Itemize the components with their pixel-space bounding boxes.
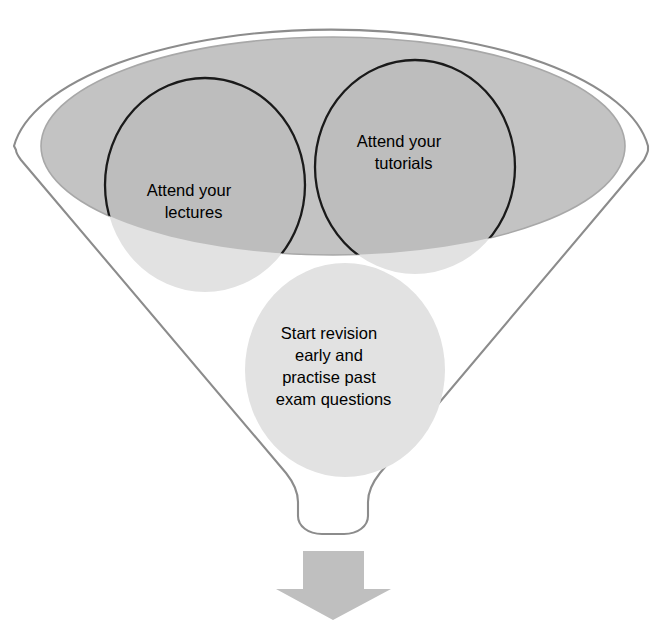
label-line: practise past (282, 368, 376, 386)
label-line: lectures (165, 203, 223, 221)
funnel-diagram-canvas: Attend your lectures Attend your tutoria… (0, 0, 662, 625)
label-line: exam questions (276, 390, 392, 408)
label-line: Attend your (147, 181, 232, 199)
label-line: Attend your (357, 132, 442, 150)
label-line: Start revision (281, 324, 377, 342)
label-line: early and (295, 346, 363, 364)
down-arrow-icon (276, 551, 391, 620)
funnel-diagram: Attend your lectures Attend your tutoria… (0, 0, 662, 625)
label-line: tutorials (375, 154, 433, 172)
